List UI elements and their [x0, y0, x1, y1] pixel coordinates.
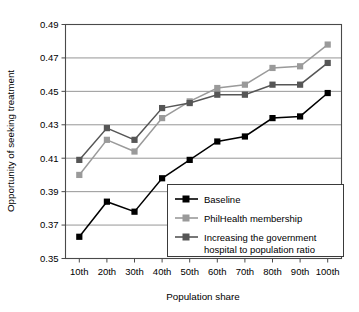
- data-point-marker: [76, 172, 82, 178]
- data-point-marker: [104, 137, 110, 143]
- x-tick-label: 40th: [153, 266, 172, 277]
- series-2: [76, 60, 331, 163]
- data-point-marker: [297, 63, 303, 69]
- data-point-marker: [104, 199, 110, 205]
- data-point-marker: [214, 138, 220, 144]
- y-tick-label: 0.43: [40, 119, 59, 130]
- data-point-marker: [159, 175, 165, 181]
- chart-container: 0.350.370.390.410.430.450.470.49 10th20t…: [0, 0, 359, 312]
- y-axis-tick-labels: 0.350.370.390.410.430.450.470.49: [40, 19, 59, 264]
- y-tick-label: 0.47: [40, 52, 59, 63]
- x-tick-label: 60th: [208, 266, 227, 277]
- legend-swatch-marker-0: [183, 196, 190, 203]
- data-point-marker: [269, 82, 275, 88]
- y-tick-label: 0.45: [40, 86, 59, 97]
- data-point-marker: [242, 82, 248, 88]
- data-point-marker: [325, 41, 331, 47]
- y-axis-title: Opportunity of seeking treatment: [5, 70, 16, 212]
- x-tick-label: 70th: [236, 266, 255, 277]
- data-point-marker: [76, 157, 82, 163]
- data-point-marker: [269, 115, 275, 121]
- data-point-marker: [297, 82, 303, 88]
- x-tick-label: 80th: [263, 266, 282, 277]
- data-point-marker: [242, 133, 248, 139]
- legend-swatch-marker-1: [183, 215, 190, 222]
- data-point-marker: [76, 234, 82, 240]
- data-point-marker: [131, 148, 137, 154]
- x-tick-label: 10th: [70, 266, 89, 277]
- x-tick-label: 100th: [316, 266, 340, 277]
- data-point-marker: [187, 157, 193, 163]
- x-axis-title: Population share: [166, 291, 240, 302]
- x-tick-label: 30th: [125, 266, 144, 277]
- y-axis-tickmarks: [62, 25, 66, 259]
- data-point-marker: [242, 92, 248, 98]
- legend-label-2-line1: Increasing the government: [204, 232, 317, 243]
- series-1: [76, 41, 331, 178]
- x-axis-tick-labels: 10th20th30th40th50th60th70th80th90th100t…: [70, 266, 340, 277]
- x-tick-label: 20th: [98, 266, 117, 277]
- data-point-marker: [104, 125, 110, 131]
- data-point-marker: [214, 85, 220, 91]
- y-tick-label: 0.35: [40, 253, 59, 264]
- data-point-marker: [214, 92, 220, 98]
- data-point-marker: [325, 60, 331, 66]
- x-tick-label: 90th: [291, 266, 310, 277]
- line-chart: 0.350.370.390.410.430.450.470.49 10th20t…: [0, 0, 359, 312]
- data-point-marker: [297, 113, 303, 119]
- y-tick-label: 0.41: [40, 153, 59, 164]
- data-point-marker: [325, 90, 331, 96]
- y-tick-label: 0.37: [40, 219, 59, 230]
- legend-swatch-marker-2: [183, 234, 190, 241]
- y-tick-label: 0.49: [40, 19, 59, 30]
- data-point-marker: [159, 115, 165, 121]
- legend-label-2-line2: hospital to population ratio: [204, 244, 315, 255]
- legend-label-1: PhilHealth membership: [204, 213, 302, 224]
- data-point-marker: [131, 209, 137, 215]
- legend-label-0: Baseline: [204, 194, 240, 205]
- x-tick-label: 50th: [180, 266, 199, 277]
- x-axis-tickmarks: [79, 259, 327, 263]
- data-point-marker: [269, 65, 275, 71]
- data-point-marker: [131, 137, 137, 143]
- data-point-marker: [159, 105, 165, 111]
- series-line: [79, 45, 327, 175]
- data-point-marker: [187, 100, 193, 106]
- series-line: [79, 63, 327, 160]
- y-tick-label: 0.39: [40, 186, 59, 197]
- legend: Baseline PhilHealth membership Increasin…: [168, 185, 344, 257]
